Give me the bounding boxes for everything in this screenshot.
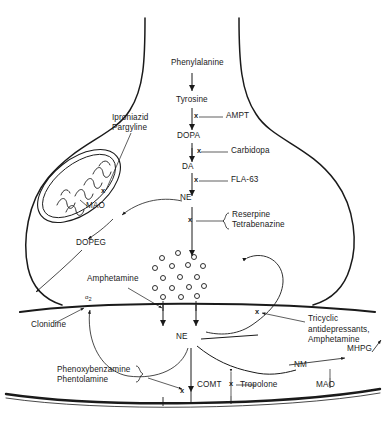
label-clonidine: Clonidine bbox=[31, 320, 66, 330]
label-da: DA bbox=[182, 162, 194, 172]
label-comt: COMT bbox=[197, 380, 222, 390]
block-marker-carbidopa: x bbox=[197, 146, 201, 156]
presynaptic-membrane bbox=[20, 304, 375, 312]
label-mhpg: MHPG bbox=[347, 344, 372, 354]
reuptake-pathway bbox=[206, 255, 283, 334]
block-marker-uptake: x bbox=[255, 307, 259, 317]
line-alpha-blockers bbox=[148, 378, 182, 389]
label-tricyclic-antidepressants: Tricyclicantidepressants,Amphetamine bbox=[308, 314, 384, 346]
label-tetrabenazine: Tetrabenazine bbox=[232, 220, 285, 230]
label-reserpine: Reserpine bbox=[232, 210, 270, 220]
label-tyrosine: Tyrosine bbox=[176, 95, 208, 105]
line-tricyclic bbox=[262, 313, 305, 322]
label-phentolamine: Phentolamine bbox=[57, 375, 108, 385]
label-ne-terminal: NE bbox=[180, 193, 192, 203]
label-fla63: FLA-63 bbox=[231, 175, 258, 185]
brace-alpha-blockers bbox=[136, 366, 143, 382]
label-pargyline: Pargyline bbox=[112, 123, 147, 133]
label-ampt: AMPT bbox=[226, 111, 249, 121]
block-marker-ampt: x bbox=[194, 111, 198, 121]
arrow-ne-to-mao bbox=[122, 199, 182, 215]
label-dopa: DOPA bbox=[177, 131, 200, 141]
label-phenoxybenzamine: Phenoxybenzamine bbox=[57, 365, 131, 375]
label-ne-cleft: NE bbox=[176, 332, 188, 342]
line-iproniazid-pargyline bbox=[106, 133, 131, 190]
block-marker-alpha-receptor: x bbox=[180, 386, 184, 396]
line-ne-to-uptake bbox=[201, 335, 258, 339]
presynaptic-uptake-ticks bbox=[163, 301, 196, 311]
block-marker-fla63: x bbox=[194, 175, 198, 185]
block-marker-comt: x bbox=[229, 379, 233, 389]
label-tropolone: Tropolone bbox=[240, 380, 277, 390]
label-mao-terminal: MAO bbox=[86, 201, 105, 211]
figure-canvas: Phenylalanine Tyrosine DOPA DA NE AMPT C… bbox=[0, 0, 385, 423]
label-phenylalanine: Phenylalanine bbox=[171, 58, 224, 68]
label-carbidopa: Carbidopa bbox=[231, 146, 270, 156]
label-alpha2-receptor: α2 bbox=[85, 292, 92, 304]
arrow-dopeg-out bbox=[36, 250, 82, 292]
curve-ne-to-comt bbox=[197, 346, 252, 372]
arrow-reuptake-to-vesicles bbox=[206, 255, 283, 334]
label-nm: NM bbox=[294, 360, 307, 370]
label-iproniazid: Iproniazid bbox=[112, 113, 149, 123]
label-dopeg: DOPEG bbox=[76, 238, 106, 248]
postsynaptic-membrane bbox=[6, 389, 380, 407]
arrow-mao-to-dopeg bbox=[88, 219, 113, 239]
block-marker-reserpine: x bbox=[188, 215, 192, 225]
label-amphetamine-presynaptic: Amphetamine bbox=[87, 274, 139, 284]
release-arrows bbox=[163, 305, 196, 326]
vesicle-cluster bbox=[153, 251, 207, 300]
block-marker-mao-terminal: x bbox=[101, 186, 105, 196]
curve-comt-to-nm bbox=[252, 370, 296, 374]
label-mao-postsynaptic: MAO bbox=[316, 380, 335, 390]
